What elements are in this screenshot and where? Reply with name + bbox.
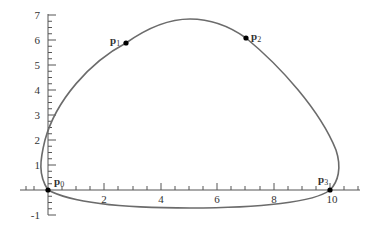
x-tick-label: 6 xyxy=(214,193,220,205)
spline-curve xyxy=(41,19,339,208)
point-p2 xyxy=(243,35,248,40)
point-label-p2: p2 xyxy=(251,30,261,44)
spline-chart: 2 4 6 8 10 -1 1 2 3 4 5 6 7 p0 p1 p2 p3 xyxy=(0,0,378,241)
point-p1 xyxy=(123,40,128,45)
x-ticks xyxy=(26,183,358,190)
y-tick-label: 2 xyxy=(35,134,41,146)
point-label-p3: p3 xyxy=(318,173,328,187)
y-tick-label: -1 xyxy=(31,209,40,221)
y-tick-label: 1 xyxy=(35,159,41,171)
y-tick-labels: -1 1 2 3 4 5 6 7 xyxy=(31,9,41,221)
y-tick-label: 6 xyxy=(35,34,41,46)
point-p0 xyxy=(45,187,50,192)
y-tick-label: 5 xyxy=(35,59,41,71)
y-tick-label: 7 xyxy=(35,9,41,21)
point-label-p0: p0 xyxy=(54,175,64,189)
x-tick-label: 4 xyxy=(158,193,164,205)
control-points xyxy=(45,35,332,192)
x-tick-label: 10 xyxy=(327,193,339,205)
y-tick-label: 4 xyxy=(35,84,41,96)
y-tick-label: 3 xyxy=(35,109,41,121)
axes xyxy=(20,14,360,215)
x-tick-labels: 2 4 6 8 10 xyxy=(101,193,338,205)
point-label-p1: p1 xyxy=(110,34,120,48)
point-p3 xyxy=(327,187,332,192)
